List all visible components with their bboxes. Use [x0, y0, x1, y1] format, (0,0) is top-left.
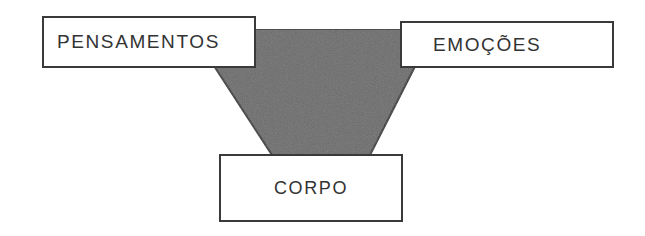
diagram-canvas: PENSAMENTOS EMOÇÕES CORPO — [0, 0, 645, 236]
node-box-emocoes[interactable]: EMOÇÕES — [400, 21, 614, 68]
node-label-corpo: CORPO — [274, 178, 348, 199]
node-label-pensamentos: PENSAMENTOS — [57, 31, 220, 53]
node-box-pensamentos[interactable]: PENSAMENTOS — [42, 16, 256, 68]
node-label-emocoes: EMOÇÕES — [433, 34, 541, 56]
node-box-corpo[interactable]: CORPO — [219, 154, 403, 222]
